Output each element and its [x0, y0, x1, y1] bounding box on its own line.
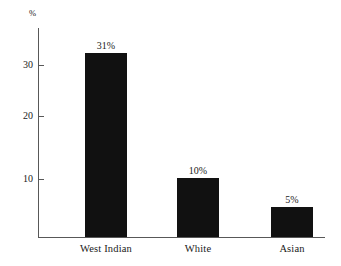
y-axis-tick-label-30: 30: [23, 59, 33, 70]
x-axis-line: [38, 237, 325, 238]
bar-asian: [271, 207, 313, 237]
bar-value-label-asian: 5%: [257, 194, 327, 205]
bar-value-label-west-indian: 31%: [71, 40, 141, 51]
x-axis-label-asian: Asian: [232, 242, 341, 255]
bar-value-label-white: 10%: [163, 165, 233, 176]
y-axis-unit-label: %: [29, 8, 36, 18]
y-axis-tick-label-20: 20: [23, 110, 33, 121]
bar-west-indian: [85, 53, 127, 237]
y-axis-tick-label-10: 10: [23, 173, 33, 184]
bar-chart: % 30 20 10 31% 10% 5% West Indian White …: [0, 0, 341, 266]
plot-area: 31% 10% 5%: [38, 28, 325, 237]
bar-white: [177, 178, 219, 237]
